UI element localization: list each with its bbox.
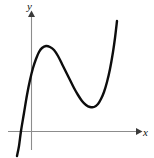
x-axis bbox=[8, 128, 143, 135]
x-axis-arrow-icon bbox=[136, 128, 143, 135]
graph-canvas bbox=[0, 0, 154, 158]
x-axis-label: x bbox=[143, 127, 148, 138]
graph-figure: y x bbox=[0, 0, 154, 158]
y-axis-label: y bbox=[27, 1, 32, 12]
